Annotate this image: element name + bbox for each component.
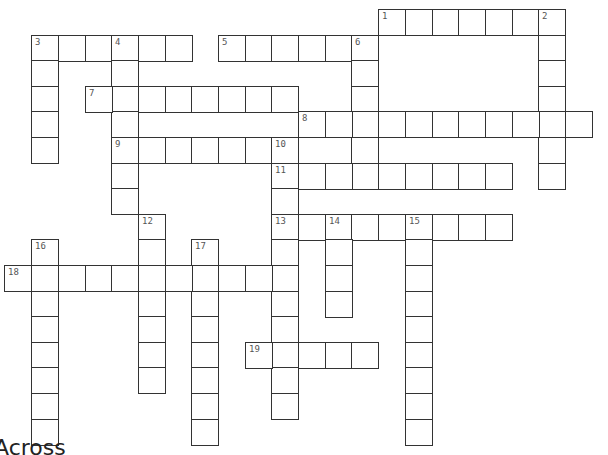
grid-cell[interactable] <box>485 163 513 190</box>
grid-cell[interactable] <box>351 60 379 87</box>
grid-cell[interactable] <box>245 86 273 113</box>
grid-cell[interactable]: 12 <box>138 214 166 241</box>
grid-cell[interactable] <box>111 111 139 138</box>
grid-cell[interactable] <box>191 419 219 446</box>
grid-cell[interactable] <box>191 137 219 164</box>
grid-cell[interactable] <box>271 265 299 292</box>
grid-cell[interactable] <box>31 316 59 343</box>
grid-cell[interactable] <box>405 393 433 420</box>
grid-cell[interactable] <box>111 265 139 292</box>
grid-cell[interactable] <box>271 86 299 113</box>
grid-cell[interactable]: 14 <box>325 214 353 241</box>
grid-cell[interactable] <box>218 86 246 113</box>
grid-cell[interactable] <box>191 393 219 420</box>
grid-cell[interactable] <box>405 265 433 292</box>
grid-cell[interactable] <box>432 214 460 241</box>
grid-cell[interactable] <box>31 60 59 87</box>
grid-cell[interactable]: 7 <box>85 86 113 113</box>
grid-cell[interactable] <box>351 163 379 190</box>
grid-cell[interactable]: 19 <box>245 342 273 369</box>
grid-cell[interactable]: 18 <box>4 265 32 292</box>
grid-cell[interactable] <box>405 367 433 394</box>
grid-cell[interactable] <box>271 393 299 420</box>
grid-cell[interactable] <box>325 291 353 318</box>
grid-cell[interactable] <box>191 316 219 343</box>
grid-cell[interactable] <box>298 342 326 369</box>
grid-cell[interactable]: 10 <box>271 137 299 164</box>
grid-cell[interactable] <box>271 35 299 62</box>
grid-cell[interactable] <box>165 137 193 164</box>
grid-cell[interactable] <box>538 35 566 62</box>
grid-cell[interactable] <box>138 265 166 292</box>
grid-cell[interactable] <box>405 316 433 343</box>
grid-cell[interactable] <box>31 393 59 420</box>
grid-cell[interactable] <box>85 265 113 292</box>
grid-cell[interactable]: 5 <box>218 35 246 62</box>
grid-cell[interactable] <box>405 419 433 446</box>
grid-cell[interactable] <box>271 291 299 318</box>
grid-cell[interactable] <box>31 265 59 292</box>
grid-cell[interactable] <box>138 137 166 164</box>
grid-cell[interactable]: 8 <box>298 111 326 138</box>
grid-cell[interactable]: 2 <box>538 9 566 36</box>
grid-cell[interactable] <box>538 163 566 190</box>
grid-cell[interactable] <box>485 9 513 36</box>
grid-cell[interactable] <box>405 342 433 369</box>
grid-cell[interactable] <box>31 367 59 394</box>
grid-cell[interactable]: 11 <box>271 163 299 190</box>
grid-cell[interactable] <box>191 291 219 318</box>
grid-cell[interactable] <box>458 111 486 138</box>
grid-cell[interactable] <box>325 265 353 292</box>
grid-cell[interactable] <box>458 163 486 190</box>
grid-cell[interactable] <box>538 86 566 113</box>
grid-cell[interactable] <box>31 291 59 318</box>
grid-cell[interactable] <box>165 265 193 292</box>
grid-cell[interactable] <box>138 367 166 394</box>
grid-cell[interactable]: 15 <box>405 214 433 241</box>
grid-cell[interactable] <box>111 163 139 190</box>
grid-cell[interactable] <box>218 265 246 292</box>
grid-cell[interactable] <box>271 239 299 266</box>
grid-cell[interactable]: 1 <box>378 9 406 36</box>
grid-cell[interactable] <box>405 239 433 266</box>
grid-cell[interactable] <box>351 342 379 369</box>
grid-cell[interactable] <box>298 163 326 190</box>
grid-cell[interactable] <box>271 342 299 369</box>
grid-cell[interactable]: 17 <box>191 239 219 266</box>
grid-cell[interactable] <box>405 291 433 318</box>
grid-cell[interactable] <box>138 342 166 369</box>
grid-cell[interactable] <box>378 111 406 138</box>
grid-cell[interactable] <box>191 86 219 113</box>
grid-cell[interactable] <box>58 265 86 292</box>
grid-cell[interactable] <box>31 111 59 138</box>
grid-cell[interactable] <box>271 367 299 394</box>
grid-cell[interactable] <box>298 214 326 241</box>
grid-cell[interactable] <box>512 9 540 36</box>
grid-cell[interactable] <box>165 86 193 113</box>
grid-cell[interactable] <box>458 214 486 241</box>
grid-cell[interactable]: 4 <box>111 35 139 62</box>
grid-cell[interactable] <box>351 111 379 138</box>
grid-cell[interactable] <box>432 163 460 190</box>
grid-cell[interactable] <box>538 60 566 87</box>
grid-cell[interactable] <box>271 188 299 215</box>
grid-cell[interactable] <box>405 111 433 138</box>
grid-cell[interactable] <box>138 316 166 343</box>
grid-cell[interactable] <box>405 163 433 190</box>
grid-cell[interactable] <box>485 111 513 138</box>
grid-cell[interactable]: 16 <box>31 239 59 266</box>
grid-cell[interactable] <box>485 214 513 241</box>
grid-cell[interactable] <box>512 111 540 138</box>
grid-cell[interactable] <box>351 137 379 164</box>
grid-cell[interactable] <box>351 214 379 241</box>
grid-cell[interactable] <box>538 137 566 164</box>
grid-cell[interactable] <box>271 316 299 343</box>
grid-cell[interactable] <box>31 342 59 369</box>
grid-cell[interactable] <box>138 291 166 318</box>
grid-cell[interactable] <box>111 188 139 215</box>
grid-cell[interactable] <box>31 86 59 113</box>
grid-cell[interactable] <box>165 35 193 62</box>
grid-cell[interactable] <box>325 342 353 369</box>
grid-cell[interactable]: 6 <box>351 35 379 62</box>
grid-cell[interactable] <box>325 239 353 266</box>
